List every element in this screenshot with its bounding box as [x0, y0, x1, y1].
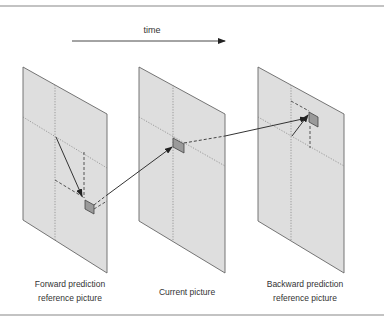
backward-reference-picture — [258, 67, 344, 273]
forward-label-line2: reference picture — [38, 293, 102, 303]
current-label: Current picture — [159, 287, 215, 297]
motion-prediction-diagram: time Forward prediction reference pictur… — [0, 0, 384, 323]
forward-reference-picture — [23, 67, 107, 273]
current-picture — [139, 67, 225, 273]
backward-label-line1: Backward prediction — [267, 279, 344, 289]
forward-label-line1: Forward prediction — [35, 279, 106, 289]
backward-label-line2: reference picture — [273, 293, 337, 303]
time-label: time — [143, 25, 160, 35]
